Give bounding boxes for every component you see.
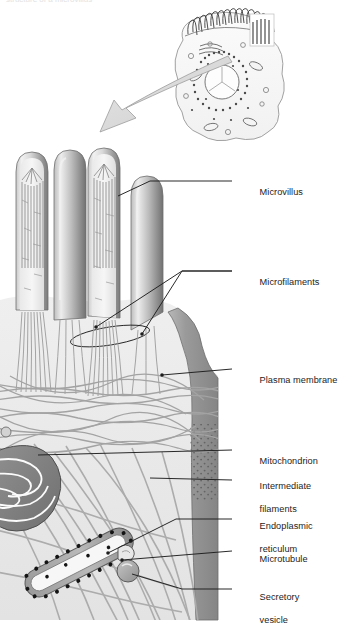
label-microvillus: Microvillus <box>244 176 303 210</box>
label-plasma-membrane: Plasma membrane <box>244 364 337 398</box>
label-secretory-vesicle: Secretory vesicle <box>244 581 299 633</box>
labels-layer: Microvillus Microfilaments Plasma membra… <box>0 0 346 633</box>
figure-root: structure of a microvillus <box>0 0 346 633</box>
label-microfilaments: Microfilaments <box>244 266 319 300</box>
label-microtubule: Microtubule <box>244 543 308 577</box>
